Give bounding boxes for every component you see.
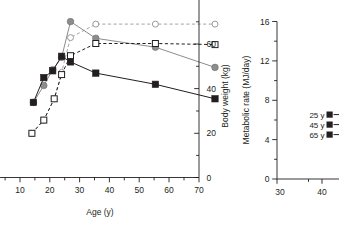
body-weight-panel: 10 20 30 40 50 60 70 Age (y) [0,0,230,217]
y-axis-title: Metabolic rate (MJ/day) [241,55,251,144]
data-point [41,117,47,123]
y-axis-title: Body weight (kg) [220,64,230,127]
x-tick-label: 30 [75,185,85,195]
legend-marker-65y [327,132,333,138]
data-point [59,72,65,78]
metabolic-rate-y-axis: 0 4 8 12 16 Metabolic rate (MJ/day) [241,17,277,185]
data-point [152,21,158,27]
y-tick-label: 0 [265,174,270,184]
y-tick-label: 20 [207,128,217,138]
x-tick-label: 50 [134,185,144,195]
data-point [93,41,99,47]
data-point [68,53,74,59]
metabolic-rate-panel: 0 4 8 12 16 Metabolic rate (MJ/day) 30 4… [241,17,339,197]
figure-container: 10 20 30 40 50 60 70 Age (y) [0,0,339,228]
data-point [50,68,56,74]
data-point [212,96,218,102]
legend-label-25y: 25 y [309,111,324,120]
x-tick-label: 40 [105,185,115,195]
y-tick-label: 16 [260,17,270,27]
data-point [152,41,158,47]
data-point [152,81,158,87]
x-axis-title: Age (y) [86,207,114,217]
y-tick-label: 12 [260,56,270,66]
data-point [29,130,35,136]
figure-svg: 10 20 30 40 50 60 70 Age (y) [0,0,339,228]
metabolic-rate-x-axis: 30 40 [275,179,339,197]
data-point [58,53,64,59]
data-point [212,64,219,71]
data-point [67,18,74,25]
data-point [212,21,218,27]
legend-marker-25y [327,112,333,118]
data-point [67,59,73,65]
x-tick-label: 30 [275,187,285,197]
x-tick-label: 70 [194,185,204,195]
legend-label-65y: 65 y [309,131,324,140]
y-tick-label: 0 [207,173,212,183]
y-tick-label: 40 [207,84,217,94]
data-point [30,99,36,105]
x-tick-label: 10 [15,185,25,195]
body-weight-y-axis: 0 20 40 60 Body weight (kg) [194,0,230,183]
x-tick-label: 20 [45,185,55,195]
data-point [93,21,99,27]
data-point [93,70,99,76]
y-tick-label: 60 [207,39,217,49]
y-tick-label: 4 [265,135,270,145]
x-tick-label: 40 [317,187,327,197]
metabolic-rate-legend: 25 y 45 y 65 y [309,111,339,140]
series-line [33,22,215,103]
black-open-square-series [29,41,218,137]
legend-label-45y: 45 y [309,121,324,130]
data-point [68,35,74,41]
y-tick-label: 8 [265,95,270,105]
data-point [51,96,57,102]
black-filled-square-series [30,53,218,106]
x-tick-label: 60 [164,185,174,195]
data-point [41,74,47,80]
body-weight-x-axis: 10 20 30 40 50 60 70 Age (y) [0,178,204,218]
legend-marker-45y [327,122,333,128]
